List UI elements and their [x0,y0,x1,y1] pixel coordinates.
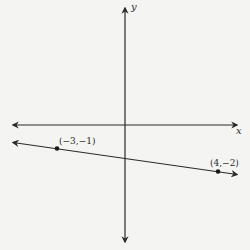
point-marker [55,146,60,151]
coordinate-plane: y x (−3,−1) (4,−2) [0,0,250,250]
x-axis-label: x [236,125,242,136]
y-axis-label: y [130,1,137,12]
point-marker [216,169,221,174]
point-neg3-neg1: (−3,−1) [55,136,96,151]
point-label: (4,−2) [210,158,239,168]
point-label: (−3,−1) [59,136,95,146]
